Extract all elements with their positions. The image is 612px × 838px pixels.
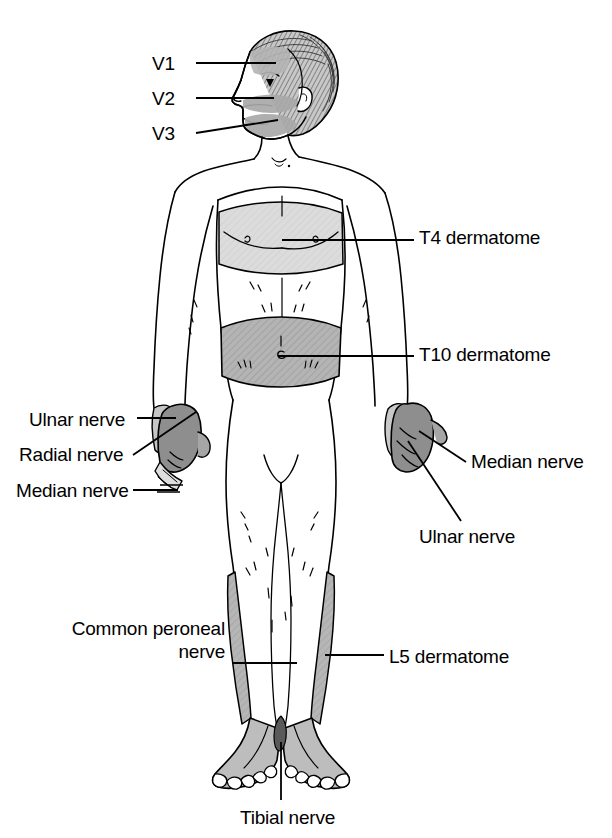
label-t10-dermatome: T10 dermatome <box>419 343 551 366</box>
l5-band-left <box>228 572 251 724</box>
label-v3: V3 <box>152 122 175 145</box>
label-l5-dermatome: L5 dermatome <box>389 645 509 668</box>
label-tibial-nerve: Tibial nerve <box>240 806 335 829</box>
region-t4-dermatome <box>219 196 343 274</box>
region-l5-dermatome <box>228 572 335 724</box>
label-median-nerve-left: Median nerve <box>16 479 129 502</box>
label-v2: V2 <box>152 87 175 110</box>
region-ulnar-left <box>158 404 201 472</box>
label-v1: V1 <box>152 52 175 75</box>
label-t4-dermatome: T4 dermatome <box>419 226 540 249</box>
label-radial-nerve-left: Radial nerve <box>19 443 123 466</box>
abdomen-detail <box>250 278 310 318</box>
label-median-nerve-right: Median nerve <box>471 450 584 473</box>
label-ulnar-nerve-right: Ulnar nerve <box>419 525 515 548</box>
dermatome-figure: V1 V2 V3 T4 dermatome T10 dermatome Ulna… <box>0 0 612 838</box>
l5-band-right <box>311 572 334 724</box>
region-t10-dermatome <box>221 317 341 387</box>
region-v1 <box>250 47 290 76</box>
label-ulnar-nerve-left: Ulnar nerve <box>29 408 125 431</box>
label-common-peroneal-nerve: Common peroneal nerve <box>33 617 225 663</box>
neck-shoulders-group <box>175 136 385 193</box>
right-hand-group <box>385 403 447 472</box>
head-group <box>232 31 338 139</box>
